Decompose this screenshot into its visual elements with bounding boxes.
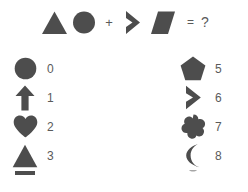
legend-value: 2 bbox=[47, 121, 54, 133]
legend-value: 7 bbox=[215, 121, 222, 133]
legend-item-chevron: 6 bbox=[178, 83, 248, 112]
equation-operand-2 bbox=[118, 9, 178, 36]
legend-right-column: 5 6 7 8 bbox=[178, 54, 248, 184]
parallelogram-icon bbox=[148, 9, 178, 36]
chevron-icon bbox=[118, 9, 148, 36]
chevron-icon bbox=[178, 84, 208, 111]
partial-shape-icon bbox=[178, 170, 208, 184]
pentagon-icon bbox=[178, 55, 208, 82]
triangle-icon bbox=[10, 142, 40, 169]
legend-value: 1 bbox=[47, 92, 54, 104]
answer-placeholder: ? bbox=[201, 15, 209, 29]
crescent-icon bbox=[178, 142, 208, 169]
legend-item-heart: 2 bbox=[10, 112, 118, 141]
legend-left-column: 0 1 2 3 bbox=[10, 54, 118, 184]
legend-item-quatrefoil: 7 bbox=[178, 112, 248, 141]
arrow-up-icon bbox=[10, 84, 40, 111]
quatrefoil-icon bbox=[178, 113, 208, 140]
equals-operator: = bbox=[178, 16, 201, 28]
circle-icon bbox=[69, 9, 99, 36]
legend-item-circle: 0 bbox=[10, 54, 118, 83]
bar-icon bbox=[10, 170, 40, 184]
equation-operand-1 bbox=[39, 9, 99, 36]
equation-row: + = ? bbox=[0, 4, 248, 40]
legend-value: 6 bbox=[215, 92, 222, 104]
circle-icon bbox=[10, 55, 40, 82]
legend-value: 8 bbox=[215, 150, 222, 162]
legend: 0 1 2 3 bbox=[0, 54, 248, 192]
legend-value: 3 bbox=[47, 150, 54, 162]
plus-operator: + bbox=[99, 16, 118, 29]
heart-icon bbox=[10, 113, 40, 140]
legend-item-arrow-up: 1 bbox=[10, 83, 118, 112]
triangle-icon bbox=[39, 9, 69, 36]
legend-item-partial-right bbox=[178, 170, 248, 184]
legend-value: 5 bbox=[215, 63, 222, 75]
legend-value: 0 bbox=[47, 63, 54, 75]
legend-item-pentagon: 5 bbox=[178, 54, 248, 83]
legend-item-partial-left bbox=[10, 170, 118, 184]
legend-item-crescent: 8 bbox=[178, 141, 248, 170]
legend-item-triangle: 3 bbox=[10, 141, 118, 170]
